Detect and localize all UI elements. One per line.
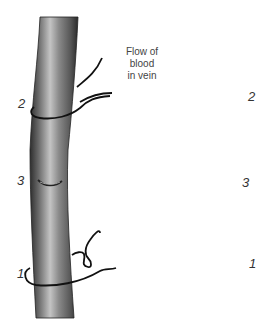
right-label-2: 2 [248,89,255,104]
right-label-1: 1 [249,256,256,271]
flow-label-line-2: blood [117,58,167,70]
left-vein [30,17,78,318]
left-label-1: 1 [17,266,24,281]
flow-label: Flow of blood in vein [117,46,167,82]
left-label-3: 3 [17,173,24,188]
right-label-3: 3 [242,175,249,190]
left-label-2: 2 [18,96,25,111]
flow-label-line-3: in vein [117,70,167,82]
flow-label-line-1: Flow of [117,46,167,58]
